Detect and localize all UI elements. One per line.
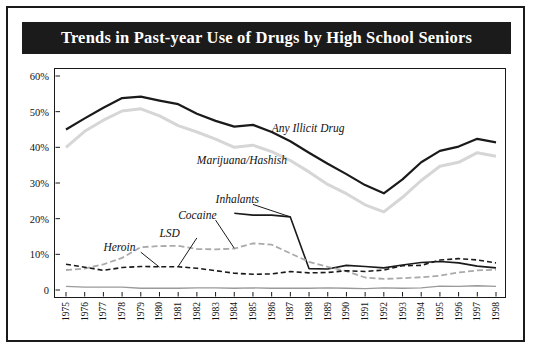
x-tick-label: 1990	[341, 302, 351, 321]
x-tick-label: 1979	[136, 302, 146, 321]
x-tick-label: 1980	[154, 302, 164, 321]
series-annotation-label: Cocaine	[178, 209, 216, 221]
x-tick-label: 1997	[472, 302, 482, 321]
y-tick-label: 10%	[30, 249, 49, 260]
chart-frame: Trends in Past-year Use of Drugs by High…	[6, 6, 525, 342]
x-tick-label: 1982	[192, 302, 202, 321]
chart-canvas	[54, 68, 506, 298]
y-tick-label: 40%	[30, 142, 49, 153]
annotation-leader-line	[216, 220, 235, 248]
x-tick-label: 1998	[491, 302, 501, 321]
x-tick-label: 1996	[454, 302, 464, 321]
chart-title-bar: Trends in Past-year Use of Drugs by High…	[22, 22, 511, 54]
x-tick-label: 1986	[267, 302, 277, 321]
x-tick-label: 1977	[98, 302, 108, 321]
y-tick-label: 20%	[30, 213, 49, 224]
x-tick-label: 1983	[211, 302, 221, 321]
y-tick-label: 0	[44, 285, 49, 296]
x-tick-label: 1992	[379, 302, 389, 321]
x-tick-label: 1978	[117, 302, 127, 321]
plot-area: 010%20%30%40%50%60% 19751976197719781979…	[54, 68, 506, 298]
y-tick-label: 60%	[30, 71, 49, 82]
x-tick-label: 1994	[416, 302, 426, 321]
series-line	[66, 259, 496, 275]
x-tick-label: 1993	[398, 302, 408, 321]
series-line	[234, 213, 496, 269]
x-tick-label: 1989	[323, 302, 333, 321]
x-tick-label: 1988	[304, 302, 314, 321]
annotation-leader-line	[141, 252, 160, 267]
x-tick-label: 1995	[435, 302, 445, 321]
series-annotation-label: Any Illicit Drug	[272, 122, 345, 134]
x-tick-label: 1987	[285, 302, 295, 321]
x-tick-label: 1991	[360, 302, 370, 321]
x-tick-label: 1981	[173, 302, 183, 321]
x-tick-label: 1985	[248, 302, 258, 321]
series-annotation-label: Marijuana/Hashish	[197, 154, 287, 166]
annotation-leader-line	[178, 238, 197, 267]
x-tick-label: 1975	[61, 302, 71, 321]
series-annotation-label: Heroin	[103, 241, 135, 253]
y-tick-label: 50%	[30, 106, 49, 117]
page-title: Trends in Past-year Use of Drugs by High…	[61, 28, 472, 48]
x-tick-label: 1976	[80, 302, 90, 321]
series-annotation-label: LSD	[159, 227, 179, 239]
x-tick-label: 1984	[229, 302, 239, 321]
y-tick-label: 30%	[30, 178, 49, 189]
series-line	[66, 286, 496, 289]
series-annotation-label: Inhalants	[216, 193, 259, 205]
